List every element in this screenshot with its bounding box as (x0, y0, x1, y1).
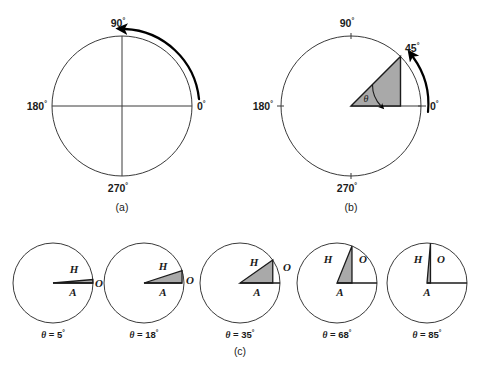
panel-b-label-90: 90° (340, 17, 355, 29)
panel-c-angle-caption: θ = 85° (413, 329, 442, 341)
panel-c-label-H: H (69, 263, 79, 275)
panel-c-caption: (c) (234, 345, 246, 357)
panel-c-label-H: H (413, 253, 423, 265)
panel-c-triangle (337, 246, 352, 283)
panel-c-label-O: O (359, 253, 367, 265)
panel-b-theta-symbol: θ (364, 93, 369, 104)
panel-c-label-O: O (437, 253, 445, 265)
panel-b: θ 45° 0° 90° 180° 270° (b) (253, 17, 439, 213)
panel-c-angle-caption: θ = 18° (130, 329, 159, 341)
panel-c-label-O: O (283, 261, 291, 273)
panel-c-label-O: O (186, 274, 194, 286)
panel-c-circle-1: H O A θ = 5° (13, 243, 103, 340)
trigonometry-figure: 0° 90° 180° 270° (a) θ 45° 0° 90° (0, 0, 482, 369)
panel-c-circle-3: H O A θ = 35° (200, 243, 291, 340)
panel-c-label-A: A (252, 286, 260, 298)
panel-b-label-0: 0° (430, 100, 439, 112)
panel-c-angle-caption: θ = 68° (323, 329, 352, 341)
panel-c-label-O: O (95, 277, 103, 289)
panel-c-triangle (427, 243, 430, 283)
figure-canvas: 0° 90° 180° 270° (a) θ 45° 0° 90° (0, 0, 482, 369)
panel-c-angle-caption: θ = 5° (41, 329, 65, 341)
panel-b-label-45: 45° (405, 42, 420, 54)
panel-c-triangle (144, 271, 182, 283)
panel-c-circle-5: H O A θ = 85° (387, 243, 467, 340)
panel-c-circle-4: H O A θ = 68° (297, 243, 377, 340)
panel-b-caption: (b) (345, 201, 358, 213)
panel-c-angle-caption: θ = 35° (226, 329, 255, 341)
panel-c-label-A: A (422, 286, 430, 298)
panel-b-label-270: 270° (337, 182, 358, 194)
panel-c-label-A: A (335, 286, 343, 298)
panel-c-label-A: A (68, 286, 76, 298)
panel-c-label-H: H (323, 253, 333, 265)
panel-c-label-A: A (158, 286, 166, 298)
panel-a-label-180: 180° (27, 100, 48, 112)
panel-c-label-H: H (249, 256, 259, 268)
panel-a-label-90: 90° (111, 17, 126, 29)
panel-a-label-0: 0° (197, 100, 206, 112)
panel-c: H O A θ = 5° H O A θ = 18° H O (13, 243, 467, 357)
panel-a-label-270: 270° (108, 182, 129, 194)
panel-a-caption: (a) (116, 201, 129, 213)
panel-b-label-180: 180° (253, 100, 274, 112)
panel-c-label-H: H (158, 260, 168, 272)
panel-c-circle-2: H O A θ = 18° (104, 243, 194, 340)
panel-a-rotation-arrow (125, 29, 199, 99)
panel-a: 0° 90° 180° 270° (a) (27, 17, 206, 213)
